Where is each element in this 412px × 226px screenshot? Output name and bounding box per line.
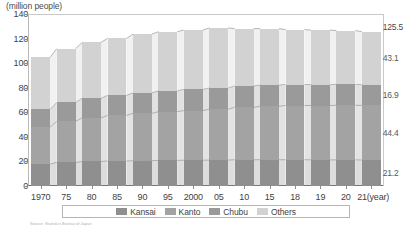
bar-column [286,14,305,186]
y-tick-mark [25,63,28,64]
bar-column [57,14,76,186]
bar-segment-kansai [57,162,76,186]
bar-segment-chubu [133,93,152,114]
bar-segment-others [336,31,355,85]
bar-column [184,14,203,186]
x-tick-label: 21(year) [357,192,389,202]
bar-segment-chubu [336,84,355,105]
x-tick-label: 2000 [184,192,203,202]
bar-segment-chubu [158,91,177,112]
bar-column [31,14,50,186]
bar-segment-kanto [184,111,203,161]
bar-segment-kanto [286,106,305,160]
x-tick-mark [219,186,220,189]
bar-segment-others [57,49,76,103]
bar-column [82,14,101,186]
x-tick-mark [346,186,347,189]
x-tick-label: 18 [290,192,300,202]
bar-segment-kansai [184,160,203,186]
bar-segment-others [82,42,101,98]
bar-segment-others [286,30,305,85]
bar-segment-kanto [31,127,50,164]
value-label-kansai: 21.2 [383,168,399,178]
bar-segment-kanto [260,106,279,159]
value-label-chubu: 16.9 [383,90,399,100]
x-tick-label: 19 [316,192,326,202]
legend-item-kanto[interactable]: Kanto [165,207,201,217]
legend-swatch-kanto [165,208,176,215]
x-tick-mark [193,186,194,189]
bar-segment-chubu [82,98,101,118]
legend-item-others[interactable]: Others [257,207,296,217]
population-stacked-bar-chart: (million people) 020406080100120140 125.… [0,0,412,226]
bar-column [108,14,127,186]
total-value-label: 125.5 [383,22,403,32]
bar-segment-chubu [31,109,50,127]
bar-column [260,14,279,186]
bar-segment-others [184,30,203,89]
bar-segment-others [108,38,127,95]
x-tick-label: 95 [163,192,173,202]
bar-segment-kanto [133,113,152,160]
legend-swatch-kansai [116,208,127,215]
bar-segment-chubu [311,85,330,106]
legend-label: Others [271,207,296,217]
legend-label: Kanto [179,207,201,217]
value-label-kanto: 44.4 [383,128,399,138]
x-tick-mark [142,186,143,189]
bar-segment-kanto [362,105,381,160]
bar-segment-others [31,57,50,109]
legend-swatch-others [257,208,268,215]
bar-segment-kansai [235,160,254,186]
x-tick-label: 05 [214,192,224,202]
source-note: Source: Statistics Bureau of Japan [30,221,91,226]
bar-segment-kansai [209,160,228,186]
value-label-others: 43.1 [383,53,399,63]
legend-item-kansai[interactable]: Kansai [116,207,155,217]
x-tick-label: 1970 [31,192,50,202]
y-tick-mark [25,88,28,89]
bar-segment-chubu [57,102,76,121]
x-tick-label: 80 [87,192,97,202]
y-tick-mark [25,112,28,113]
bar-segment-others [311,30,330,84]
bar-segment-kansai [133,161,152,186]
bar-segment-others [362,32,381,85]
bar-column [158,14,177,186]
bar-segment-kansai [286,160,305,186]
bar-segment-others [158,32,177,91]
bar-segment-others [260,29,279,85]
legend-item-chubu[interactable]: Chubu [209,207,248,217]
x-tick-label: 15 [265,192,275,202]
bar-segment-others [133,34,152,93]
bar-column [209,14,228,186]
x-tick-label: 75 [61,192,71,202]
bar-column [235,14,254,186]
y-axis: 020406080100120140 [0,0,28,226]
y-tick-mark [25,161,28,162]
x-tick-mark [320,186,321,189]
bar-segment-kansai [82,161,101,186]
bar-segment-kansai [108,161,127,186]
bar-segment-others [209,28,228,88]
bar-segment-chubu [235,86,254,107]
bar-segment-chubu [260,85,279,106]
x-tick-mark [270,186,271,189]
y-tick-mark [25,39,28,40]
bar-segment-kansai [336,160,355,186]
bar-segment-kanto [336,105,355,160]
bar-segment-chubu [286,85,305,106]
bar-segment-kansai [31,164,50,186]
bar-segment-kansai [362,160,381,186]
bar-segment-kanto [209,109,228,160]
legend-label: Kansai [130,207,155,217]
bar-segment-chubu [209,88,228,109]
x-tick-mark [41,186,42,189]
bar-segment-chubu [184,89,203,110]
x-tick-mark [244,186,245,189]
bar-segment-kanto [235,107,254,159]
bar-column [311,14,330,186]
bar-segment-others [235,29,254,86]
bar-column [133,14,152,186]
bar-segment-kanto [57,121,76,162]
